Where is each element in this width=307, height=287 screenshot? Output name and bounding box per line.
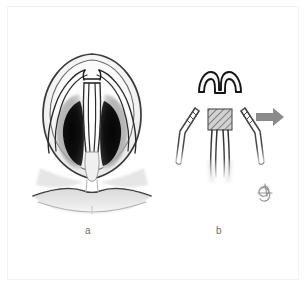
artist-signature bbox=[258, 184, 272, 201]
figure-root: a b bbox=[0, 0, 307, 287]
panel-a-nose-base-view bbox=[33, 54, 151, 215]
left-lateral-crus-strip bbox=[176, 108, 199, 164]
columella bbox=[85, 152, 99, 181]
panel-b-divided-cartilage bbox=[176, 72, 284, 201]
figure-illustration bbox=[0, 0, 307, 287]
panel-b-caption: b bbox=[216, 225, 222, 236]
excised-dome-arch bbox=[199, 72, 241, 93]
panel-a-caption: a bbox=[85, 225, 91, 236]
hatched-graft-block bbox=[208, 109, 232, 130]
philtrum bbox=[86, 180, 98, 192]
medial-crura-strips bbox=[210, 130, 230, 182]
direction-arrow bbox=[256, 108, 284, 126]
